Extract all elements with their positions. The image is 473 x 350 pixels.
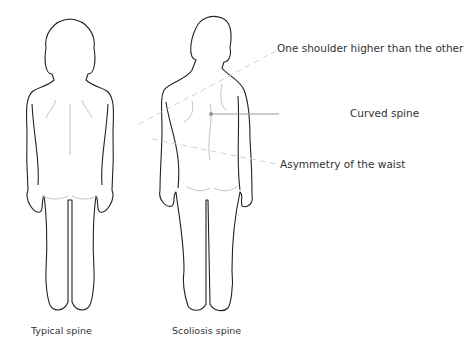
pointer-dot-icon bbox=[209, 112, 213, 116]
spine-pointer bbox=[209, 112, 279, 116]
annotation-waist: Asymmetry of the waist bbox=[280, 158, 405, 170]
annotation-shoulder: One shoulder higher than the other bbox=[277, 42, 463, 54]
waist-guide-line bbox=[152, 139, 276, 164]
typical-spine-figure bbox=[27, 19, 114, 310]
scoliosis-spine-details bbox=[184, 84, 238, 191]
caption-typical-spine: Typical spine bbox=[31, 325, 92, 336]
typical-spine-details bbox=[42, 100, 98, 199]
guide-lines bbox=[139, 51, 276, 164]
caption-scoliosis-spine: Scoliosis spine bbox=[172, 325, 241, 336]
annotation-curved-spine: Curved spine bbox=[350, 107, 419, 119]
scoliosis-spine-figure bbox=[160, 16, 253, 310]
shoulder-guide-line bbox=[139, 51, 276, 124]
